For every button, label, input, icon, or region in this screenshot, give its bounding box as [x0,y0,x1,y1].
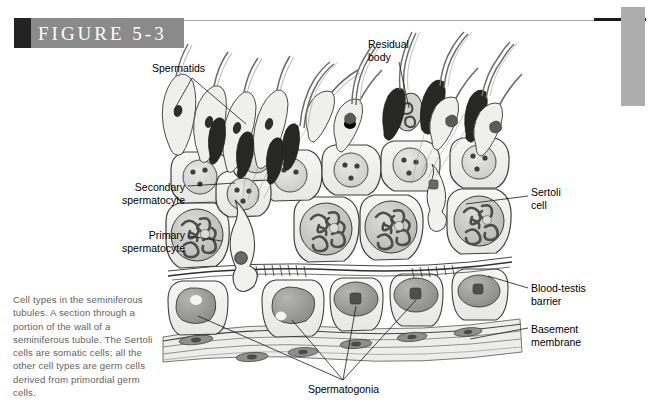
elongated-spermatid-head [383,80,488,142]
spermatid [474,74,522,156]
spermatogonia-row [168,269,508,337]
spermatid [430,68,478,150]
label-residual-body: Residual body [368,38,438,63]
secondary-spermatocyte-nuclei [183,143,496,210]
spermatids-group [162,32,522,184]
figure-page: FIGURE 5-3 [0,0,654,414]
label-secondary-spermatocyte: Secondary spermatocyte [93,181,185,206]
spermatid [162,44,195,155]
spermatid [306,70,360,142]
primary-spermatocyte-nuclei [171,196,504,261]
sertoli-cell-body [230,164,446,292]
basement-membrane-layer [163,319,522,363]
spermatogonia-nuclei [176,275,500,324]
spermatid [223,58,263,172]
sertoli-apical-cytoplasm [243,110,472,200]
header-rule-thin [184,20,596,21]
label-spermatogonia: Spermatogonia [281,383,406,396]
residual-body [393,91,425,133]
figure-banner-accent-block [14,18,31,48]
label-basement-membrane: Basement membrane [531,323,621,348]
label-blood-testis-barrier: Blood-testis barrier [531,282,616,307]
secondary-spermatocytes [171,136,509,217]
label-sertoli-cell: Sertoli cell [531,186,611,211]
label-spermatids: Spermatids [152,62,242,75]
spermatid [253,56,294,168]
blood-testis-barrier-strands [168,257,512,280]
elongated-spermatid-head [208,118,299,185]
label-primary-spermatocyte: Primary spermatocyte [93,229,185,254]
spermatid [334,70,382,152]
page-edge-tab [621,7,645,106]
leader-lines [174,62,528,380]
primary-spermatocytes [166,189,511,268]
figure-caption: Cell types in the seminiferous tubules. … [13,293,165,399]
figure-number-label: FIGURE 5-3 [38,21,188,46]
